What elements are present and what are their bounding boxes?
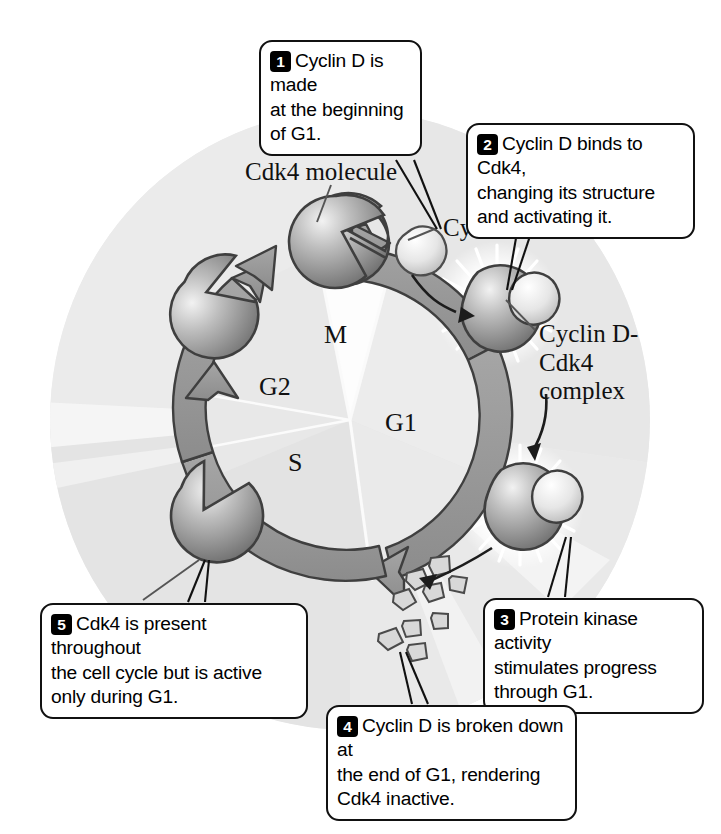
cell-cycle-diagram: Cdk4 molecule Cyclin D Cyclin D- Cdk4 co… [0,0,721,834]
label-cyclin-d-cdk4-complex: Cyclin D- Cdk4 complex [539,320,638,406]
step-badge-2: 2 [477,134,498,155]
label-cdk4-molecule: Cdk4 molecule [245,158,397,187]
phase-label-g1: G1 [385,408,417,438]
callout-text-5: Cdk4 is present throughout the cell cycl… [51,612,296,709]
callout-text-2: Cyclin D binds to Cdk4, changing its str… [477,132,683,229]
callout-text-1: Cyclin D is made at the beginning of G1. [270,49,410,146]
callout-step-3: 3 Protein kinase activity stimulates pro… [483,598,704,714]
step-badge-3: 3 [494,609,515,630]
callout-text-3: Protein kinase activity stimulates progr… [494,607,692,704]
callout-text-4: Cyclin D is broken down at the end of G1… [337,714,565,811]
phase-label-m: M [324,320,347,350]
callout-step-4: 4 Cyclin D is broken down at the end of … [326,705,577,821]
phase-label-g2: G2 [259,372,291,402]
step-badge-5: 5 [51,614,72,635]
step-badge-1: 1 [270,51,291,72]
step-badge-4: 4 [337,716,358,737]
phase-label-s: S [288,448,302,478]
callout-step-5: 5 Cdk4 is present throughout the cell cy… [40,603,308,719]
callout-step-1: 1 Cyclin D is made at the beginning of G… [259,40,422,156]
callout-step-2: 2 Cyclin D binds to Cdk4, changing its s… [466,123,695,239]
